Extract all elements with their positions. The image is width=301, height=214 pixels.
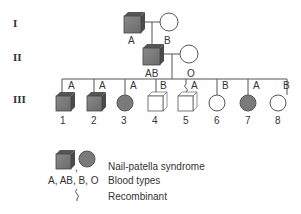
child-7-affected-female <box>240 95 256 111</box>
child-6-number: 6 <box>214 115 220 126</box>
child-3-affected-female <box>117 95 133 111</box>
child-5-unaffected-male <box>178 92 197 111</box>
child-1-number: 1 <box>60 115 66 126</box>
child-1-affected-male <box>56 92 75 111</box>
legend-recombinant-icon <box>76 189 79 201</box>
legend-blood-symbols: A, AB, B, O <box>48 175 99 186</box>
child-6-unaffected-female <box>209 95 225 111</box>
child-2-number: 2 <box>91 115 97 126</box>
legend-affected-label: Nail-patella syndrome <box>108 161 205 172</box>
child-8-unaffected-female <box>270 95 286 111</box>
child-8-blood: B <box>283 80 290 91</box>
gen1-mother <box>160 13 178 31</box>
child-3-number: 3 <box>121 115 127 126</box>
child-2-blood: A <box>99 80 106 91</box>
gen2-father-blood: AB <box>145 68 159 79</box>
gen1-father-blood: A <box>128 35 135 46</box>
child-6-blood: B <box>222 80 229 91</box>
legend-affected-square <box>56 150 75 169</box>
gen2-mother-blood: O <box>187 68 195 79</box>
child-7-blood: A <box>253 80 260 91</box>
child-1-blood: A <box>68 80 75 91</box>
gen2-father <box>143 44 164 65</box>
generation-label-2: II <box>13 51 22 63</box>
child-3-blood: A <box>130 80 137 91</box>
gen1-mother-blood: B <box>164 35 171 46</box>
gen1-father <box>124 12 145 33</box>
child-2-affected-male <box>87 92 106 111</box>
child-8-number: 8 <box>275 115 281 126</box>
child-4-number: 4 <box>152 115 158 126</box>
svg-text:,: , <box>75 162 78 173</box>
legend-blood-label: Blood types <box>108 175 160 186</box>
child-4-unaffected-male <box>148 92 167 111</box>
child-4-blood: B <box>160 80 167 91</box>
child-7-number: 7 <box>245 115 251 126</box>
legend-recombinant-label: Recombinant <box>108 191 167 202</box>
gen2-mother <box>180 45 198 63</box>
generation-label-3: III <box>13 93 26 105</box>
pedigree-diagram: I II III A B AB O A 1 A 2 A 3 <box>0 0 301 214</box>
legend-affected-circle <box>79 151 95 167</box>
child-5-blood: A <box>191 80 198 91</box>
generation-label-1: I <box>13 17 17 29</box>
child-5-number: 5 <box>183 115 189 126</box>
